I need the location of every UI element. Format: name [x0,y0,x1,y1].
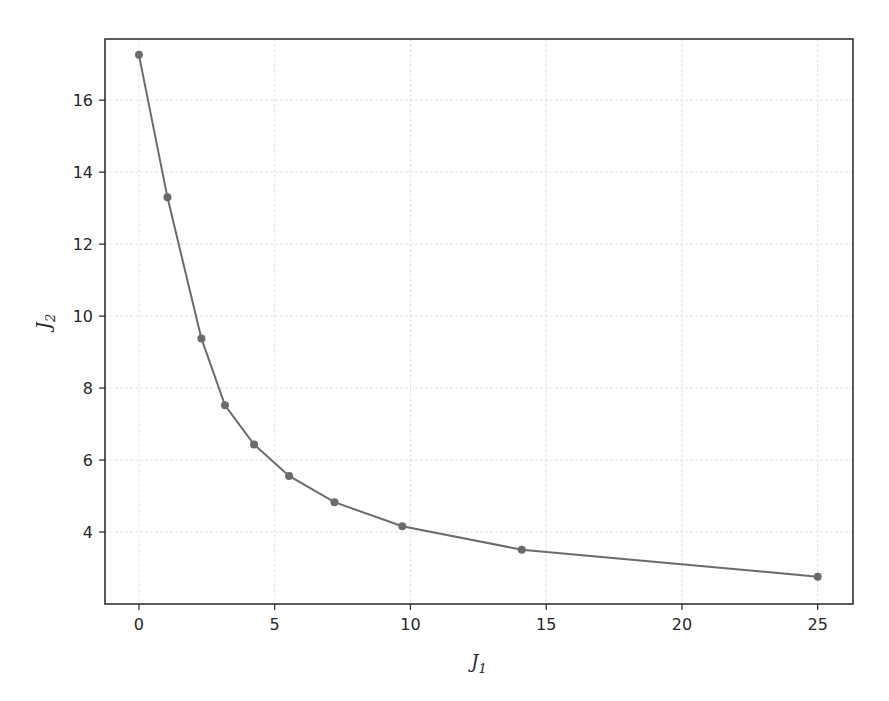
data-point-marker [221,401,229,409]
data-point-marker [398,522,406,530]
y-tick-label: 6 [83,451,93,470]
y-tick-label: 10 [73,307,93,326]
y-axis-ticks: 46810121416 [73,91,105,542]
x-axis-ticks: 0510152025 [134,604,828,634]
y-axis-label: J2 [33,314,58,334]
data-point-marker [285,472,293,480]
data-point-marker [163,193,171,201]
x-tick-label: 20 [672,615,692,634]
y-tick-label: 4 [83,523,93,542]
data-point-marker [250,441,258,449]
chart: 0510152025 46810121416 J1 J2 [0,0,889,701]
data-point-marker [197,334,205,342]
y-tick-label: 12 [73,235,93,254]
y-tick-label: 16 [73,91,93,110]
grid-lines [105,39,853,604]
x-tick-label: 5 [270,615,280,634]
data-point-marker [135,51,143,59]
y-tick-label: 14 [73,163,93,182]
x-tick-label: 25 [808,615,828,634]
x-tick-label: 0 [134,615,144,634]
y-tick-label: 8 [83,379,93,398]
data-point-marker [814,573,822,581]
x-tick-label: 15 [536,615,556,634]
data-point-marker [330,498,338,506]
x-tick-label: 10 [400,615,420,634]
x-axis-label: J1 [467,651,487,676]
plot-frame [105,39,853,604]
data-point-marker [518,546,526,554]
